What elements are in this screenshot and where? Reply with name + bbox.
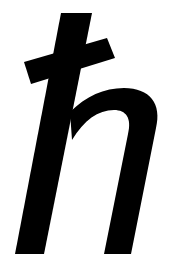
h-bar-icon	[0, 0, 172, 274]
h-bar-symbol: ħ	[0, 0, 172, 274]
